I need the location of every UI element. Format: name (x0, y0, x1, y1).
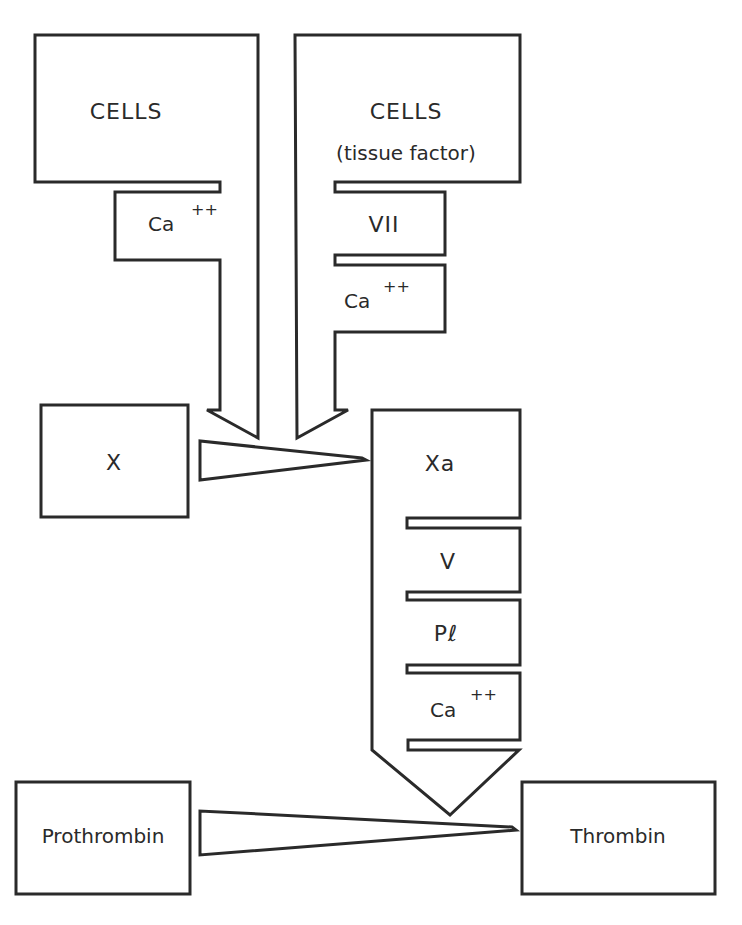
factor-v-label: V (440, 549, 456, 574)
xa-calcium-superscript: ++ (470, 685, 497, 704)
factor-xa-label: Xa (425, 451, 456, 476)
prothrombin-label: Prothrombin (42, 824, 165, 848)
factor-x-label: X (106, 450, 122, 475)
x-to-xa-wedge-arrow (200, 441, 366, 480)
left-cofactor-label: Ca (148, 212, 174, 236)
cells-right-sublabel: (tissue factor) (336, 141, 476, 165)
thrombin-label: Thrombin (569, 824, 665, 848)
cells-left-label: CELLS (90, 99, 163, 124)
left-cofactor-superscript: ++ (191, 200, 218, 219)
right-cofactor-label: Ca (344, 289, 370, 313)
coagulation-diagram: CELLS Ca ++ CELLS (tissue factor) VII Ca… (0, 0, 742, 925)
xa-calcium-label: Ca (430, 698, 456, 722)
cells-left-arrow (35, 35, 258, 438)
cells-right-label: CELLS (370, 99, 443, 124)
factor-vii-label: VII (368, 212, 399, 237)
phospholipid-label: Pℓ (434, 621, 458, 646)
right-cofactor-superscript: ++ (383, 277, 410, 296)
cells-right-arrow (295, 35, 520, 438)
prothrombin-to-thrombin-wedge-arrow (200, 811, 516, 855)
